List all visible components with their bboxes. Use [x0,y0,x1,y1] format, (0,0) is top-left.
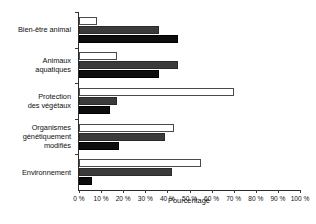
category-axis-labels: Bien-être animal Animaux aquatiques Prot… [0,12,74,190]
bar-group [79,124,300,150]
y-tick [75,119,78,120]
bar-group [79,17,300,43]
bar-group [79,88,300,114]
bar-chart: Bien-être animal Animaux aquatiques Prot… [0,0,316,224]
bar [79,124,174,132]
bar [79,88,234,96]
x-tick-100 [300,190,301,193]
y-tick [75,83,78,84]
bar [79,97,117,105]
x-tick-50 [190,190,191,193]
bar [79,106,110,114]
category-label-environnement: Environnement [0,168,71,177]
category-label-bien-etre-animal: Bien-être animal [0,25,71,34]
bar [79,17,97,25]
x-tick-60 [212,190,213,193]
x-tick-30 [145,190,146,193]
bar [79,61,178,69]
plot-area: 0 %10 %20 %30 %40 %50 %60 %70 %80 %90 %1… [78,12,300,190]
x-axis-title: Pourcentage [78,196,300,205]
x-tick-0 [79,190,80,193]
x-tick-80 [256,190,257,193]
category-label-organismes-genetiquement-modifies: Organismes génétiquement modifiés [0,123,71,151]
category-label-animaux-aquatiques: Animaux aquatiques [0,56,71,74]
bar-group [79,159,300,185]
x-tick-40 [167,190,168,193]
bar [79,133,165,141]
y-tick [75,48,78,49]
x-tick-20 [123,190,124,193]
x-tick-10 [101,190,102,193]
bar [79,159,201,167]
y-tick [75,154,78,155]
category-label-protection-des-vegetaux: Protection des végétaux [0,92,71,110]
bar [79,142,119,150]
bar [79,177,92,185]
bar [79,70,159,78]
x-tick-90 [278,190,279,193]
bar [79,35,178,43]
x-tick-70 [234,190,235,193]
y-tick [75,12,78,13]
bar-group [79,52,300,78]
bar [79,26,159,34]
bar [79,52,117,60]
bar [79,168,172,176]
